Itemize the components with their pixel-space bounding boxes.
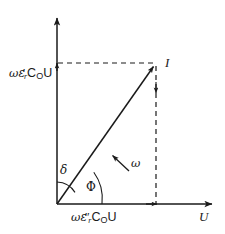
imaginary-axis-expression-label: ωε′rCOU bbox=[9, 67, 52, 81]
voltage-axis-label: U bbox=[199, 210, 208, 223]
omega-symbol: ω bbox=[9, 66, 18, 80]
angular-frequency-arrow bbox=[113, 156, 130, 172]
voltage-symbol: U bbox=[43, 66, 52, 80]
angular-frequency-label: ω bbox=[131, 158, 140, 170]
loss-angle-label: δ bbox=[60, 164, 67, 176]
total-current-phasor bbox=[57, 67, 154, 205]
phase-angle-label: Φ bbox=[86, 181, 96, 193]
imaginary-axis-expression: ωε′rCOU bbox=[9, 67, 52, 81]
omega-symbol: ω bbox=[71, 210, 80, 224]
phasor-diagram-canvas bbox=[0, 0, 225, 234]
current-phasor-label: I bbox=[165, 56, 169, 69]
capacitance-symbol: C bbox=[27, 66, 36, 80]
phasor-diagram: I U ωε′rCOU ωε″rCOU δ Φ ω bbox=[0, 0, 225, 234]
real-axis-expression-label: ωε″rCOU bbox=[71, 211, 117, 225]
capacitance-subscript-o: O bbox=[101, 215, 108, 225]
capacitance-symbol: C bbox=[91, 210, 100, 224]
voltage-symbol: U bbox=[108, 210, 117, 224]
epsilon-symbol: ε bbox=[18, 66, 24, 80]
epsilon-symbol: ε bbox=[80, 210, 86, 224]
real-axis-expression: ωε″rCOU bbox=[71, 211, 117, 225]
